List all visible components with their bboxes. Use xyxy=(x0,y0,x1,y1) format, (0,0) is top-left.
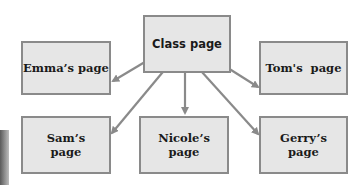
node-label-line1: Gerry’s xyxy=(280,131,327,145)
node-label-line2: page xyxy=(169,145,200,159)
node-label: Class page xyxy=(152,37,222,51)
node-class-page: Class page xyxy=(143,15,231,73)
node-label-line2: page xyxy=(288,145,319,159)
node-label: Emma’s page xyxy=(23,61,109,75)
node-nicole-page: Nicole’s page xyxy=(139,116,229,174)
node-emma-page: Emma’s page xyxy=(21,41,111,95)
node-sam-page: Sam’s page xyxy=(21,116,111,174)
node-gerry-page: Gerry’s page xyxy=(259,116,348,174)
node-label: Tom's page xyxy=(266,61,342,75)
node-label-line2: page xyxy=(51,145,82,159)
node-tom-page: Tom's page xyxy=(259,41,348,95)
node-label-line1: Nicole’s xyxy=(158,131,210,145)
node-label-line1: Sam’s xyxy=(47,131,85,145)
